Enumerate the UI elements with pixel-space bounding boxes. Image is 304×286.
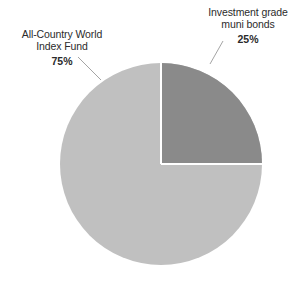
slice-label-line-2: Index Fund xyxy=(8,40,116,52)
slice-label-line-2: muni bonds xyxy=(196,18,300,30)
slice-label-line-1: All-Country World xyxy=(8,28,116,40)
pie-slice-investment-grade-muni-bonds xyxy=(161,63,262,164)
slice-label-all-country-world-index-fund: All-Country World Index Fund 75% xyxy=(8,28,116,67)
slice-label-line-1: Investment grade xyxy=(196,6,300,18)
slice-percent-value: 25% xyxy=(196,33,300,45)
pie-chart-figure: All-Country World Index Fund 75% Investm… xyxy=(0,0,304,286)
slice-percent-value: 75% xyxy=(8,55,116,67)
slice-label-investment-grade-muni-bonds: Investment grade muni bonds 25% xyxy=(196,6,300,45)
